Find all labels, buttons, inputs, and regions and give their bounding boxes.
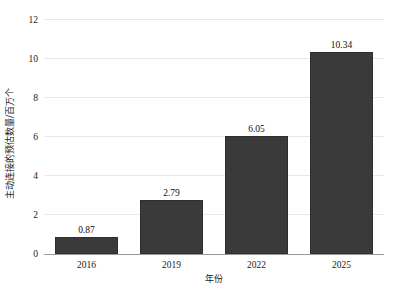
plot-area: 024681012 0.8720162.7920196.05202210.342… [44,20,384,254]
x-axis-line [44,254,384,255]
y-axis-tick-label: 12 [29,15,39,25]
x-axis-title: 年份 [44,272,384,285]
bar-value-label: 2.79 [163,188,180,198]
y-axis-tick-label: 4 [33,171,38,181]
y-axis-tick-label: 2 [33,210,38,220]
bar[interactable]: 10.342025 [310,52,372,254]
bar[interactable]: 6.052022 [225,136,287,254]
y-axis-title: 主动连接的预估数量/百万个 [0,0,20,294]
x-axis-tick-label: 2016 [77,260,96,270]
bar-value-label: 6.05 [248,124,265,134]
y-axis-tick-label: 6 [33,132,38,142]
bar[interactable]: 2.792019 [140,200,202,254]
y-axis-title-label: 主动连接的预估数量/百万个 [4,87,17,198]
y-axis-tick-label: 8 [33,93,38,103]
y-axis-tick-label: 10 [29,54,39,64]
x-axis-tick-label: 2022 [247,260,266,270]
bar[interactable]: 0.872016 [55,237,117,254]
x-axis-tick-label: 2025 [332,260,351,270]
bar-value-label: 10.34 [331,40,352,50]
gridline [44,19,384,20]
bar-value-label: 0.87 [78,225,95,235]
y-axis-tick-label: 0 [33,249,38,259]
bar-chart-figure: 主动连接的预估数量/百万个 024681012 0.8720162.792019… [0,0,409,294]
x-axis-tick-label: 2019 [162,260,181,270]
